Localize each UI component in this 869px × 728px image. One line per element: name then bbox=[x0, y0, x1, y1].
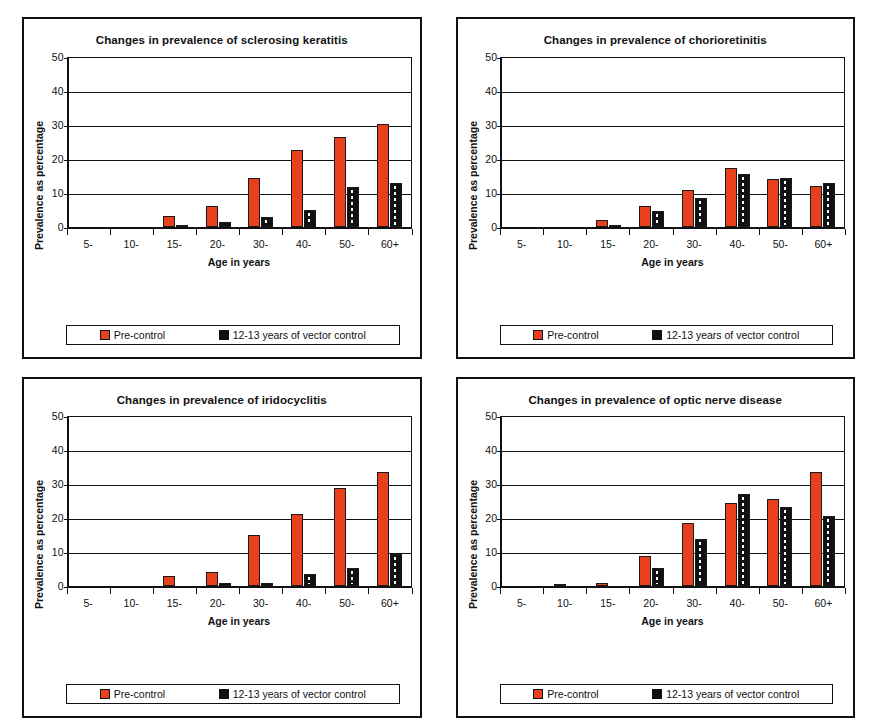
x-tick-mark bbox=[586, 588, 587, 594]
bar-post-control bbox=[219, 222, 231, 227]
legend-label-pre-control: Pre-control bbox=[547, 329, 598, 341]
x-tick-mark bbox=[153, 588, 154, 594]
legend-label-pre-control: Pre-control bbox=[114, 329, 165, 341]
x-tick-label: 15- bbox=[586, 238, 629, 250]
bar-pre-control bbox=[291, 150, 303, 227]
plot-inner bbox=[69, 416, 412, 586]
y-tick-label: 30 bbox=[485, 478, 497, 490]
bar-group bbox=[545, 58, 588, 227]
bar-group bbox=[716, 417, 759, 586]
x-axis-ticks bbox=[500, 229, 845, 237]
bar-group bbox=[154, 417, 197, 586]
x-tick-mark bbox=[802, 229, 803, 235]
plot-inner bbox=[502, 57, 845, 227]
legend-entry-pre-control: Pre-control bbox=[100, 329, 165, 341]
bar-group bbox=[282, 417, 325, 586]
legend-entry-pre-control: Pre-control bbox=[533, 329, 598, 341]
legend-entry-pre-control: Pre-control bbox=[533, 688, 598, 700]
bar-pre-control bbox=[206, 572, 218, 587]
x-tick-label: 30- bbox=[239, 238, 282, 250]
bar-group bbox=[154, 58, 197, 227]
bar-group bbox=[716, 58, 759, 227]
bar-group bbox=[368, 58, 411, 227]
x-tick-label: 50- bbox=[325, 238, 368, 250]
legend-label-pre-control: Pre-control bbox=[114, 688, 165, 700]
x-tick-label: 40- bbox=[716, 238, 759, 250]
bar-post-control bbox=[823, 183, 835, 227]
bar-post-control bbox=[347, 187, 359, 227]
y-axis-label: Prevalence as percentage bbox=[34, 102, 45, 270]
bar-pre-control bbox=[206, 206, 218, 227]
bar-post-control bbox=[652, 568, 664, 586]
x-tick-mark bbox=[412, 588, 413, 594]
x-tick-label: 15- bbox=[153, 238, 196, 250]
y-tick-label: 20 bbox=[52, 153, 64, 165]
legend-swatch-pre-control-icon bbox=[100, 689, 110, 699]
bar-group bbox=[282, 58, 325, 227]
y-tick-label: 0 bbox=[491, 221, 497, 233]
bar-pre-control bbox=[377, 124, 389, 227]
y-tick-label: 20 bbox=[485, 153, 497, 165]
x-tick-label: 50- bbox=[759, 597, 802, 609]
legend-swatch-vector-control-icon bbox=[219, 330, 229, 340]
x-tick-label: 15- bbox=[586, 597, 629, 609]
bar-groups bbox=[69, 58, 411, 227]
y-axis-tick-labels: 01020304050 bbox=[45, 57, 67, 315]
x-tick-label: 5- bbox=[67, 238, 110, 250]
chart-area: Prevalence as percentage010203040505-10-… bbox=[32, 57, 412, 315]
legend: Pre-control12-13 years of vector control bbox=[66, 684, 400, 704]
bar-group bbox=[759, 58, 802, 227]
bar-pre-control bbox=[377, 472, 389, 587]
bar-group bbox=[545, 417, 588, 586]
x-tick-mark bbox=[673, 588, 674, 594]
x-tick-label: 20- bbox=[196, 597, 239, 609]
bar-pre-control bbox=[334, 137, 346, 227]
bar-pre-control bbox=[163, 216, 175, 227]
x-axis-tick-labels: 5-10-15-20-30-40-50-60+ bbox=[500, 238, 845, 250]
bar-post-control bbox=[390, 554, 402, 587]
bar-group bbox=[240, 58, 283, 227]
x-tick-label: 60+ bbox=[802, 238, 845, 250]
y-tick-label: 40 bbox=[52, 444, 64, 456]
panel-title: Changes in prevalence of iridocyclitis bbox=[32, 394, 412, 407]
x-tick-label: 5- bbox=[67, 597, 110, 609]
y-axis-label: Prevalence as percentage bbox=[34, 461, 45, 629]
y-tick-label: 50 bbox=[52, 51, 64, 63]
plot-area bbox=[500, 57, 845, 229]
bar-post-control bbox=[652, 211, 664, 227]
legend-label-vector-control: 12-13 years of vector control bbox=[666, 688, 799, 700]
bar-post-control bbox=[390, 183, 402, 226]
bar-pre-control bbox=[163, 576, 175, 586]
x-axis-label: Age in years bbox=[500, 615, 845, 627]
x-tick-label: 20- bbox=[629, 238, 672, 250]
bar-group bbox=[111, 417, 154, 586]
y-tick-label: 0 bbox=[58, 221, 64, 233]
y-axis-label: Prevalence as percentage bbox=[468, 102, 479, 270]
y-axis-tick-labels: 01020304050 bbox=[45, 416, 67, 674]
y-tick-label: 50 bbox=[52, 410, 64, 422]
x-tick-label: 20- bbox=[629, 597, 672, 609]
bar-pre-control bbox=[682, 190, 694, 227]
plot-area bbox=[67, 57, 412, 229]
chart-area: Prevalence as percentage010203040505-10-… bbox=[466, 416, 846, 674]
bar-groups bbox=[502, 417, 844, 586]
x-tick-mark bbox=[239, 588, 240, 594]
x-axis-label: Age in years bbox=[500, 256, 845, 268]
x-tick-label: 20- bbox=[196, 238, 239, 250]
x-tick-mark bbox=[282, 588, 283, 594]
y-tick-label: 20 bbox=[485, 512, 497, 524]
panel-title: Changes in prevalence of sclerosing kera… bbox=[32, 34, 412, 47]
x-tick-label: 15- bbox=[153, 597, 196, 609]
x-tick-label: 10- bbox=[110, 238, 153, 250]
x-axis-tick-labels: 5-10-15-20-30-40-50-60+ bbox=[67, 597, 412, 609]
y-tick-label: 10 bbox=[485, 546, 497, 558]
x-tick-label: 5- bbox=[500, 238, 543, 250]
y-tick-label: 40 bbox=[485, 444, 497, 456]
x-tick-mark bbox=[759, 229, 760, 235]
bar-group bbox=[673, 58, 716, 227]
x-tick-label: 30- bbox=[673, 238, 716, 250]
y-tick-label: 40 bbox=[52, 85, 64, 97]
x-tick-mark bbox=[412, 229, 413, 235]
x-axis-tick-labels: 5-10-15-20-30-40-50-60+ bbox=[67, 238, 412, 250]
bar-groups bbox=[69, 417, 411, 586]
